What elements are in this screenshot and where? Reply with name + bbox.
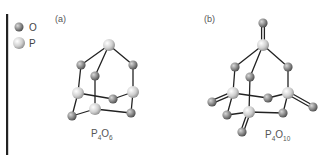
oxygen-atom [126, 108, 135, 117]
panel-b-label: (b) [204, 14, 215, 24]
legend-label-p: P [29, 38, 36, 49]
legend: O P [13, 22, 37, 49]
phosphorus-atom [243, 106, 255, 118]
oxygen-legend-icon [15, 23, 24, 32]
oxygen-atom [308, 102, 317, 111]
left-divider-bar [6, 14, 8, 155]
oxygen-atom [278, 108, 287, 117]
oxygen-atom [76, 60, 85, 69]
oxygen-atom [283, 62, 292, 71]
formula-p4o10: P4O10 [265, 129, 291, 142]
oxygen-atom [128, 60, 137, 69]
oxygen-atom [245, 72, 254, 81]
oxygen-atom [90, 71, 99, 80]
oxygen-atom [207, 97, 216, 106]
oxygen-atom [263, 93, 272, 102]
p4o6-molecule [67, 39, 139, 121]
phosphorus-atom [257, 39, 269, 51]
molecular-structure-figure: O P (a) (b) P4O6 P4O10 [0, 0, 323, 155]
legend-label-o: O [29, 22, 37, 33]
p4o10-molecule [207, 18, 317, 136]
oxygen-atom [108, 94, 117, 103]
phosphorus-legend-icon [13, 37, 25, 49]
oxygen-atom [222, 110, 231, 119]
formula-p4o6: P4O6 [91, 128, 113, 141]
phosphorus-atom [282, 87, 294, 99]
phosphorus-atom [227, 87, 239, 99]
phosphorus-atom [72, 87, 84, 99]
oxygen-atom [237, 127, 246, 136]
oxygen-atom [230, 62, 239, 71]
phosphorus-atom [89, 103, 101, 115]
phosphorus-atom [127, 86, 139, 98]
panel-a-label: (a) [55, 14, 66, 24]
phosphorus-atom [103, 39, 115, 51]
oxygen-atom [258, 18, 267, 27]
oxygen-atom [67, 111, 76, 120]
